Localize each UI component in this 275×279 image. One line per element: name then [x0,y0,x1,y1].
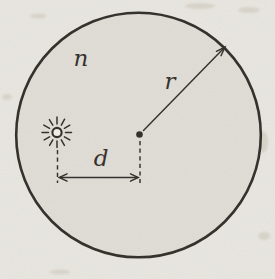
paper-grain-texture [0,0,275,279]
physics-diagram: n r d [0,0,275,279]
figure-canvas: n r d [0,0,275,279]
